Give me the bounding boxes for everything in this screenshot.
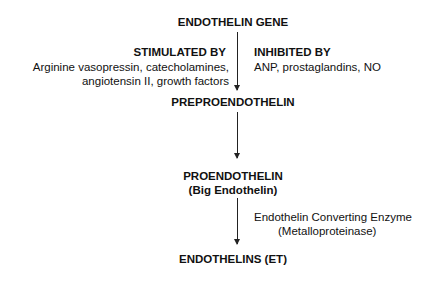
arrow-gene-to-prepro (237, 32, 238, 90)
inhibited-by-title: INHIBITED BY (254, 46, 331, 59)
inhibited-by-line1: ANP, prostaglandins, NO (254, 61, 381, 74)
stimulated-by-line2: angiotensin II, growth factors (82, 75, 229, 88)
arrow-prepro-to-pro (237, 112, 238, 158)
node-endothelins: ENDOTHELINS (ET) (179, 253, 287, 266)
arrow-pro-to-endothelins (237, 198, 238, 244)
node-endothelin-gene: ENDOTHELIN GENE (178, 16, 289, 29)
node-preproendothelin: PREPROENDOTHELIN (171, 96, 294, 109)
enzyme-sublabel: (Metalloproteinase) (278, 225, 376, 238)
node-proendothelin: PROENDOTHELIN (183, 170, 283, 183)
stimulated-by-title: STIMULATED BY (134, 46, 226, 59)
stimulated-by-line1: Arginine vasopressin, catecholamines, (33, 61, 229, 74)
node-big-endothelin: (Big Endothelin) (189, 184, 278, 197)
enzyme-label: Endothelin Converting Enzyme (254, 211, 412, 224)
